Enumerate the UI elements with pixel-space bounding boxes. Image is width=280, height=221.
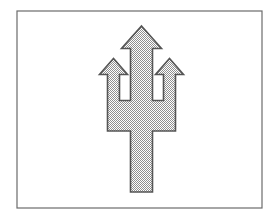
- figure-canvas: Trident arrow figure Outlined trident sh…: [0, 0, 280, 221]
- trident-figure-svg: Trident arrow figure Outlined trident sh…: [0, 0, 280, 221]
- trident-shape: [100, 26, 184, 192]
